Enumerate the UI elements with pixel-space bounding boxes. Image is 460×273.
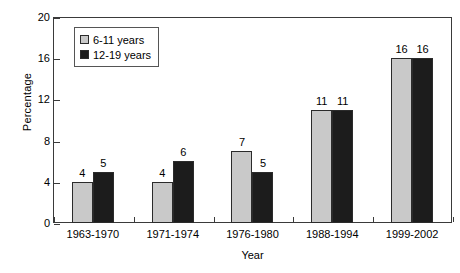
y-axis-title: Percentage	[21, 47, 33, 157]
x-axis-tick	[214, 217, 215, 222]
y-axis-tick: 20	[54, 18, 60, 19]
x-axis-category-labels: 1963-19701971-19741976-19801988-19941999…	[53, 228, 452, 240]
y-axis-tick-label: 12	[38, 93, 50, 105]
x-axis-title: Year	[53, 249, 452, 261]
y-axis-tick: 16	[54, 59, 60, 60]
x-axis-category-label: 1976-1980	[213, 228, 293, 240]
y-axis-tick: 4	[54, 183, 60, 184]
y-axis-tick-label: 20	[38, 11, 50, 23]
x-axis-category-label: 1963-1970	[53, 228, 133, 240]
y-axis-tick-label: 0	[44, 217, 50, 229]
y-axis-tick: 8	[54, 142, 60, 143]
x-axis-category-label: 1971-1974	[133, 228, 213, 240]
bar-chart: Percentage 048121620 45467511111616 1963…	[0, 0, 460, 273]
x-axis-category-label: 1999-2002	[372, 228, 452, 240]
legend-swatch-icon-series-0	[80, 35, 89, 44]
legend-item-12-19-years: 12-19 years	[80, 47, 151, 62]
legend-swatch-icon-series-1	[80, 50, 89, 59]
x-axis-tick	[54, 217, 55, 222]
y-axis-tick: 12	[54, 100, 60, 101]
x-axis-tick	[293, 217, 294, 222]
x-axis-tick	[453, 217, 454, 222]
y-axis-tick: 0	[54, 224, 60, 225]
y-axis-tick-label: 4	[44, 176, 50, 188]
x-axis-category-label: 1988-1994	[292, 228, 372, 240]
y-axis-tick-label: 16	[38, 52, 50, 64]
y-axis-tick-label: 8	[44, 135, 50, 147]
legend-item-6-11-years: 6-11 years	[80, 32, 151, 47]
legend-label-series-1: 12-19 years	[93, 49, 151, 61]
legend-label-series-0: 6-11 years	[93, 34, 144, 46]
x-axis-tick	[373, 217, 374, 222]
x-axis-tick	[134, 217, 135, 222]
legend: 6-11 years 12-19 years	[74, 27, 159, 67]
